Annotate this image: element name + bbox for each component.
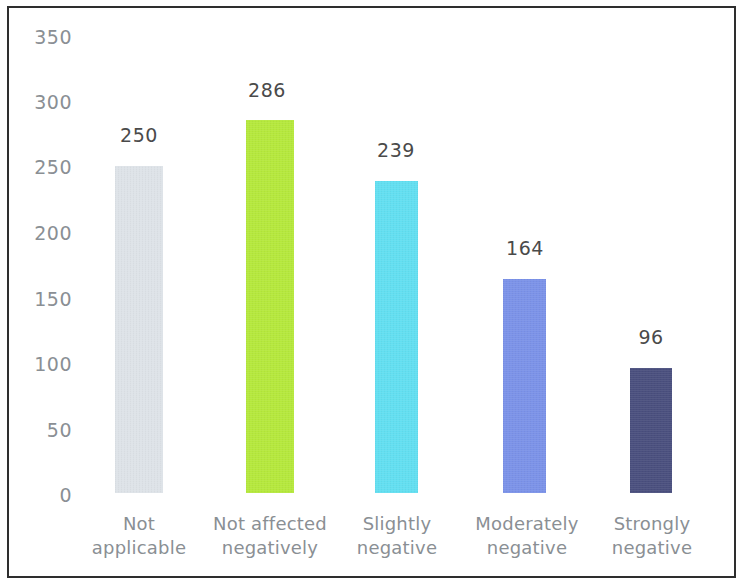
category-label-3-line1: Slightly (334, 512, 460, 536)
category-label-5: Strongly negative (590, 512, 714, 561)
bar-value-label-3: 239 (351, 141, 441, 160)
y-axis-tick-200: 200 (12, 224, 72, 243)
category-label-4-line2: negative (459, 536, 595, 560)
category-label-1-line1: Not (84, 512, 194, 536)
y-axis-tick-100: 100 (12, 355, 72, 374)
bar-value-label-2: 286 (222, 81, 312, 100)
bar-moderately-negative[interactable] (503, 279, 546, 493)
category-label-5-line2: negative (590, 536, 714, 560)
y-axis-tick-150: 150 (12, 290, 72, 309)
bar-value-label-5: 96 (606, 328, 696, 347)
bar-strongly-negative[interactable] (630, 368, 672, 493)
category-label-4: Moderately negative (459, 512, 595, 561)
category-label-3: Slightly negative (334, 512, 460, 561)
y-axis-tick-50: 50 (12, 421, 72, 440)
category-label-3-line2: negative (334, 536, 460, 560)
bar-value-label-4: 164 (480, 239, 570, 258)
category-label-2: Not affected negatively (196, 512, 344, 561)
category-label-4-line1: Moderately (459, 512, 595, 536)
y-axis-tick-0: 0 (12, 486, 72, 505)
category-label-1-line2: applicable (84, 536, 194, 560)
y-axis-tick-250: 250 (12, 158, 72, 177)
bar-not-applicable[interactable] (115, 166, 163, 493)
chart-page: 350 300 250 200 150 100 50 0 250 Not app… (0, 0, 744, 586)
bar-not-affected-negatively[interactable] (246, 120, 294, 493)
y-axis-tick-300: 300 (12, 93, 72, 112)
category-label-5-line1: Strongly (590, 512, 714, 536)
bar-value-label-1: 250 (94, 126, 184, 145)
bar-slightly-negative[interactable] (375, 181, 418, 493)
y-axis-tick-350: 350 (12, 28, 72, 47)
category-label-1: Not applicable (84, 512, 194, 561)
category-label-2-line1: Not affected (196, 512, 344, 536)
category-label-2-line2: negatively (196, 536, 344, 560)
